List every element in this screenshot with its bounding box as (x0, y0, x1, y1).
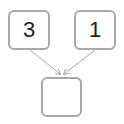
answer-box[interactable] (41, 77, 82, 117)
arrow-right-to-result (64, 50, 95, 74)
number-box-right: 1 (74, 10, 116, 50)
arrow-left-to-result (30, 50, 60, 74)
number-label: 3 (23, 17, 35, 43)
number-box-left: 3 (8, 10, 50, 50)
number-label: 1 (89, 17, 101, 43)
